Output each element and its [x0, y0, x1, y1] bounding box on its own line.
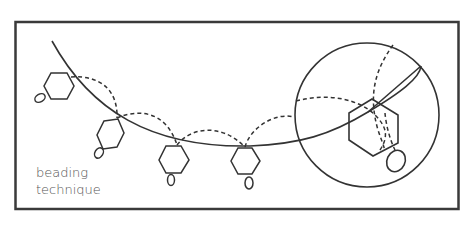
bead-1	[33, 73, 74, 104]
bead-loop-icon	[168, 175, 175, 186]
hexagon-bead-icon	[97, 119, 124, 149]
bead-2	[93, 119, 124, 160]
hexagon-bead-icon	[231, 148, 260, 174]
thread-curve-extension	[368, 66, 421, 112]
caption-line-1: beading	[36, 164, 101, 181]
hexagon-bead-icon	[159, 146, 189, 173]
bead-loop-icon	[33, 92, 46, 104]
caption: beading technique	[36, 164, 101, 198]
bead-loop-icon	[383, 147, 409, 175]
magnifier-circle	[295, 43, 439, 187]
caption-line-2: technique	[36, 181, 101, 198]
bead-4	[231, 148, 260, 189]
bead-3	[159, 146, 189, 186]
bead-loop-icon	[245, 177, 253, 189]
hexagon-bead-icon	[44, 73, 74, 99]
bead-5-magnified	[349, 99, 409, 175]
